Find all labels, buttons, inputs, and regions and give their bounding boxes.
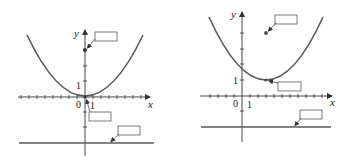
origin-label: 0 — [233, 98, 238, 109]
vertex-point — [83, 95, 86, 98]
directrix-label-box[interactable] — [118, 126, 140, 135]
focus-point — [83, 48, 87, 52]
directrix-label-box[interactable] — [300, 110, 322, 119]
vertex-label-box[interactable] — [278, 82, 301, 91]
vertex-label-box[interactable] — [89, 112, 111, 121]
parabola-curve — [209, 17, 323, 80]
directrix-pointer — [295, 118, 301, 126]
y-tick-label-1: 1 — [233, 75, 238, 86]
y-axis-label: y — [73, 27, 79, 39]
x-axis-label: x — [147, 98, 153, 110]
origin-label: 0 — [76, 99, 81, 110]
right-figure: y x 1 0 1 — [200, 8, 335, 142]
y-axis-label: y — [230, 8, 236, 20]
x-tick-label-1: 1 — [247, 99, 252, 110]
focus-pointer — [88, 39, 96, 48]
vertex-point — [264, 78, 267, 81]
focus-pointer — [269, 23, 277, 31]
y-tick-label-1: 1 — [76, 80, 81, 91]
x-axis-label: x — [329, 96, 335, 108]
left-figure: y x 1 0 1 — [18, 27, 154, 156]
parabola-diagrams: y x 1 0 1 — [0, 0, 356, 160]
focus-label-box[interactable] — [275, 15, 297, 24]
focus-point — [264, 31, 268, 35]
focus-label-box[interactable] — [95, 32, 117, 41]
x-tick-label-1: 1 — [90, 100, 95, 111]
directrix-pointer — [111, 134, 119, 142]
vertex-pointer — [269, 81, 278, 83]
